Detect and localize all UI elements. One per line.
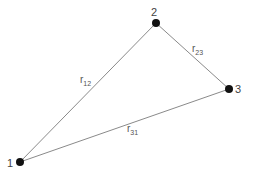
triangle-diagram: 1 2 3 r12 r23 r31 xyxy=(0,0,257,178)
node-1 xyxy=(16,158,24,166)
edge-3-1 xyxy=(20,89,229,162)
node-2 xyxy=(152,19,160,27)
edge-label-r12: r12 xyxy=(80,74,91,87)
edge-label-r12-sub: 12 xyxy=(83,80,91,87)
edge-2-3 xyxy=(156,23,229,89)
edge-label-r23-sub: 23 xyxy=(195,49,203,56)
node-label-2: 2 xyxy=(151,6,157,18)
edge-label-r31-sub: 31 xyxy=(130,129,138,136)
node-label-3: 3 xyxy=(235,83,241,95)
edge-label-r23: r23 xyxy=(192,43,203,56)
node-3 xyxy=(225,85,233,93)
edge-1-2 xyxy=(20,23,156,162)
edge-label-r31: r31 xyxy=(127,123,138,136)
node-label-1: 1 xyxy=(7,157,13,169)
